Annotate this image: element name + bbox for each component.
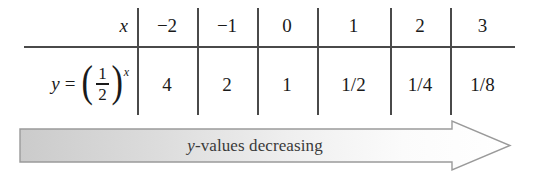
table-row: 4 (137, 66, 197, 104)
decreasing-arrow-annotation: y-values decreasing (18, 118, 518, 174)
table-row: −2 (137, 10, 197, 42)
table-row: 1 (317, 10, 390, 42)
table-row: 3 (450, 10, 515, 42)
table-row: 1/8 (450, 66, 515, 104)
formula-equals-sign: = (65, 73, 76, 95)
table-row: −1 (197, 10, 257, 42)
right-arrow-icon (18, 118, 518, 174)
table-row: 2 (197, 66, 257, 104)
formula-exponent: x (124, 65, 129, 80)
table-row: 1 (257, 66, 317, 104)
row-header-x: x (20, 10, 128, 42)
exponential-decay-table-figure: x −2 −1 0 1 2 3 y = ( 1 2 ) x 4 2 1 1/2 (0, 0, 540, 174)
row-header-y-formula: y = ( 1 2 ) x (14, 54, 130, 114)
formula-left-paren: ( (82, 62, 93, 102)
formula-variable-y: y (51, 73, 59, 95)
formula-right-paren: ) (112, 62, 123, 102)
table-row: 0 (257, 10, 317, 42)
table-row: 1/4 (390, 66, 450, 104)
formula-fraction: 1 2 (95, 65, 110, 103)
table-horizontal-rule (24, 46, 515, 48)
table-row: 1/2 (317, 66, 390, 104)
table-row: 2 (390, 10, 450, 42)
fraction-denominator: 2 (96, 86, 109, 103)
value-table: x −2 −1 0 1 2 3 y = ( 1 2 ) x 4 2 1 1/2 (0, 0, 540, 118)
formula-power-expression: ( 1 2 ) x (80, 64, 130, 104)
fraction-numerator: 1 (96, 65, 109, 82)
